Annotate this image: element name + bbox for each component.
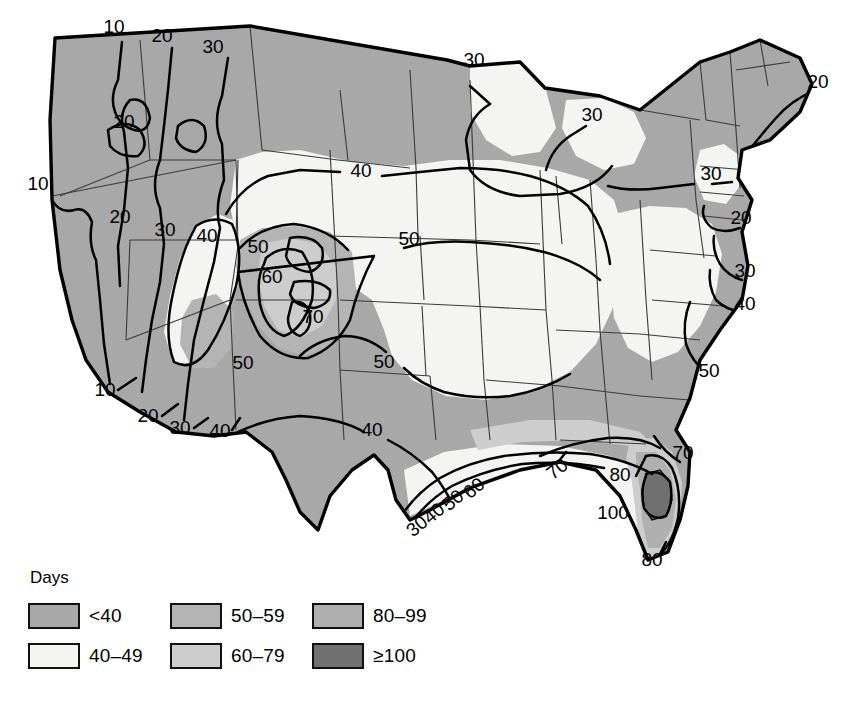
contour-label-nw-top-30: 30	[202, 36, 223, 57]
contour-label-ne-20: 20	[807, 71, 828, 92]
contour-label-sw-b-30: 30	[169, 417, 190, 438]
contour-label-nw-top-20: 20	[151, 25, 172, 46]
contour-label-plains-40: 40	[350, 160, 371, 181]
legend-label: 40–49	[89, 645, 143, 667]
legend-swatch	[312, 603, 364, 629]
legend-label: <40	[89, 605, 122, 627]
contour-label-coast-40: 40	[734, 293, 755, 314]
contour-label-nw-top-10: 10	[103, 16, 124, 37]
legend-item: <40	[28, 603, 170, 629]
contour-label-gb-40: 40	[196, 225, 217, 246]
contour-label-rockies-60: 60	[261, 266, 282, 287]
legend-title: Days	[30, 568, 448, 588]
contour-label-fl-80b: 80	[641, 549, 662, 570]
contour-label-fl-80a: 80	[609, 464, 630, 485]
contour-label-tx-40: 40	[361, 419, 382, 440]
legend-swatch	[28, 643, 80, 669]
contour-label-sw-b-20: 20	[137, 405, 158, 426]
contour-label-gb-30: 30	[154, 219, 175, 240]
contour-label-se-70: 70	[672, 442, 693, 463]
legend-swatch	[312, 643, 364, 669]
legend-label: 60–79	[231, 645, 285, 667]
legend-label: 50–59	[231, 605, 285, 627]
legend-swatch	[170, 603, 222, 629]
contour-label-lakes-30b: 30	[581, 104, 602, 125]
contour-label-west-10: 10	[27, 173, 48, 194]
contour-label-coast-20: 20	[730, 207, 751, 228]
legend-item: ≥100	[312, 643, 454, 669]
thunderstorm-days-map-figure: 1020302010203040506070504050504030302030…	[0, 0, 865, 710]
contour-label-nw-inland-20: 20	[113, 111, 134, 132]
legend-swatch	[170, 643, 222, 669]
legend-items: <4050–5980–9940–4960–79≥100	[28, 596, 448, 676]
contour-label-rockies-50: 50	[247, 236, 268, 257]
contour-label-rockies-70: 70	[302, 306, 323, 327]
map-legend: Days <4050–5980–9940–4960–79≥100	[28, 568, 448, 700]
legend-item: 50–59	[170, 603, 312, 629]
legend-label: ≥100	[373, 645, 416, 667]
contour-label-fl-100: 100	[597, 502, 629, 523]
contour-label-ny-30: 30	[700, 163, 721, 184]
legend-item: 80–99	[312, 603, 454, 629]
contour-label-gb-20: 20	[109, 206, 130, 227]
contour-label-coast-30: 30	[734, 260, 755, 281]
legend-label: 80–99	[373, 605, 427, 627]
contour-label-sw-b-10: 10	[94, 379, 115, 400]
contour-label-coast-50: 50	[698, 360, 719, 381]
contour-label-south-50: 50	[373, 351, 394, 372]
legend-item: 40–49	[28, 643, 170, 669]
contour-label-plains-50: 50	[398, 228, 419, 249]
legend-item: 60–79	[170, 643, 312, 669]
contour-label-sw-50: 50	[232, 352, 253, 373]
contour-label-sw-b-40: 40	[209, 420, 230, 441]
legend-swatch	[28, 603, 80, 629]
contour-label-lakes-30a: 30	[463, 49, 484, 70]
map-fill-layers	[50, 26, 812, 560]
